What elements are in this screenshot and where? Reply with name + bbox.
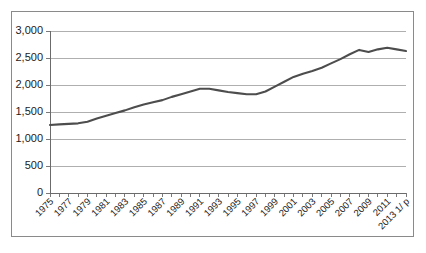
- x-axis-label: 1979: [70, 196, 93, 219]
- x-axis-label: 1995: [220, 196, 243, 219]
- y-axis-label: 1,000: [15, 132, 43, 144]
- x-axis-label: 1981: [89, 196, 112, 219]
- x-axis-label: 1987: [145, 196, 168, 219]
- y-axis-label: 2,500: [15, 51, 43, 63]
- x-axis-label: 1991: [183, 196, 206, 219]
- chart-figure: 05001,0001,5002,0002,5003,00019751977197…: [11, 11, 414, 237]
- x-axis-label: 1989: [164, 196, 187, 219]
- data-series-line: [50, 48, 406, 125]
- x-axis-label: 2009: [351, 196, 374, 219]
- line-chart: 05001,0001,5002,0002,5003,00019751977197…: [12, 12, 413, 236]
- x-axis-label: 1997: [239, 196, 262, 219]
- x-axis-label: 1983: [108, 196, 131, 219]
- y-axis-label: 0: [37, 186, 43, 198]
- x-axis-label: 2005: [314, 196, 337, 219]
- y-axis-label: 500: [25, 159, 43, 171]
- y-axis-label: 1,500: [15, 105, 43, 117]
- x-axis-label: 1999: [258, 196, 281, 219]
- x-axis-label: 1975: [33, 196, 56, 219]
- x-axis-label: 1977: [51, 196, 74, 219]
- x-axis-label: 1985: [126, 196, 149, 219]
- x-axis-label: 1993: [201, 196, 224, 219]
- x-axis-label: 2003: [295, 196, 318, 219]
- x-axis-label: 2007: [332, 196, 355, 219]
- x-axis-label: 2001: [276, 196, 299, 219]
- y-axis-label: 3,000: [15, 24, 43, 36]
- y-axis-label: 2,000: [15, 78, 43, 90]
